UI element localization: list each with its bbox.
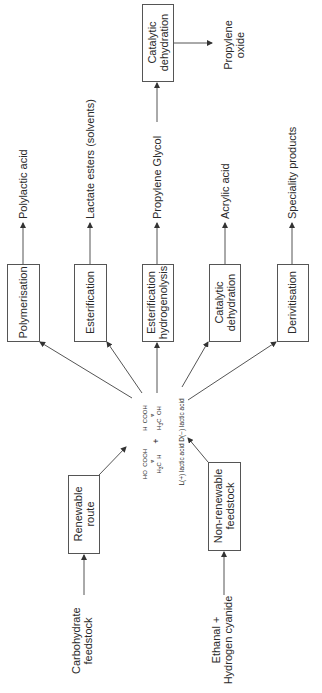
acrylic-acid-label: Acrylic acid xyxy=(219,163,231,219)
route-line1: Non-renewable xyxy=(212,462,224,550)
esterification-hydrogenolysis-label: Esterification hydrogenolysis xyxy=(145,264,169,341)
ethanal-hcn-label: Ethanal + Hydrogen cyanide xyxy=(210,594,234,686)
product-line2: oxide xyxy=(234,18,246,72)
propylene-glycol-label: Propylene Glycol xyxy=(151,136,163,219)
catalytic-dehydration-label: Catalytic dehydration xyxy=(213,264,237,341)
polymerisation-label: Polymerisation xyxy=(17,264,29,341)
product-line1: Propylene xyxy=(222,18,234,72)
feed-line1: Ethanal + xyxy=(210,594,222,686)
process-line1: Esterification xyxy=(84,264,96,341)
lactate-esters-label: Lactate esters (solvents) xyxy=(84,99,96,219)
process-line2: hydrogenolysis xyxy=(157,264,169,341)
l-lactic-acid-structure: HO COOH ⩔ H3C H xyxy=(142,446,165,482)
caption-d: D(−) lactic acid xyxy=(178,398,185,441)
d-lactic-acid-structure: H COOH ⩔ H3C OH xyxy=(142,400,165,436)
process-line1: Catalytic xyxy=(146,4,158,81)
derivitisation-label: Derivitisation xyxy=(286,264,298,341)
process-line1: Polymerisation xyxy=(17,264,29,341)
plus-sign: + xyxy=(150,436,162,446)
feed-line2: feedstock xyxy=(82,608,94,674)
process-line2: dehydration xyxy=(158,4,170,81)
process-line1: Catalytic xyxy=(213,264,225,341)
polylactic-acid-label: Polylactic acid xyxy=(17,149,29,219)
lactic-acid-caption: L(+) lactic acid D(−) lactic acid xyxy=(178,394,185,490)
process-line2: dehydration xyxy=(225,264,237,341)
secondary-catalytic-dehydration-label: Catalytic dehydration xyxy=(146,4,170,81)
route-line2: feedstock xyxy=(224,462,236,550)
feed-line1: Carbohydrate xyxy=(70,608,82,674)
process-line1: Esterification xyxy=(145,264,157,341)
route-line1: Renewable xyxy=(72,475,84,553)
process-line1: Derivitisation xyxy=(286,264,298,341)
lactic-acid-diagram: Carbohydrate feedstock Ethanal + Hydroge… xyxy=(0,0,322,693)
feed-line2: Hydrogen cyanide xyxy=(222,594,234,686)
speciality-products-label: Speciality products xyxy=(286,127,298,219)
non-renewable-feedstock-label: Non-renewable feedstock xyxy=(212,462,236,550)
route-line2: route xyxy=(84,475,96,553)
connector-arrows xyxy=(0,0,322,693)
carbohydrate-feedstock-label: Carbohydrate feedstock xyxy=(70,608,94,674)
renewable-route-label: Renewable route xyxy=(72,475,96,553)
esterification-label: Esterification xyxy=(84,264,96,341)
propylene-oxide-label: Propylene oxide xyxy=(222,18,246,72)
caption-l: L(+) lactic acid xyxy=(178,443,185,485)
